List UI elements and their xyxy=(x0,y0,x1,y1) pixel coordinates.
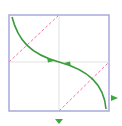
triangle-down-icon xyxy=(55,119,63,124)
diagonal-lower-right xyxy=(59,62,109,111)
phase-diagram xyxy=(0,0,122,126)
triangle-right-icon xyxy=(111,95,118,101)
diagonal-upper-left xyxy=(9,15,59,62)
